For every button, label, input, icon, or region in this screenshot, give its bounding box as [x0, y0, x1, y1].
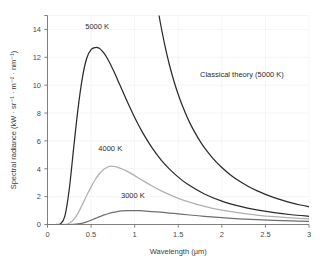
x-tick-label: 2: [220, 230, 224, 239]
y-tick-label: 4: [37, 165, 41, 174]
y-axis-title: Spectral radiance (kW · sr⁻¹ · m⁻² · nm⁻…: [9, 50, 18, 189]
x-tick-label: 0.5: [86, 230, 96, 239]
label-4000-k: 4000 K: [98, 144, 122, 153]
x-tick-label: 2.5: [260, 230, 270, 239]
y-tick-label: 12: [33, 53, 41, 62]
y-tick-label: 2: [37, 192, 41, 201]
label-3000-k: 3000 K: [121, 191, 145, 200]
x-tick-label: 3: [307, 230, 311, 239]
label-classical-theory-5000-k: Classical theory (5000 K): [200, 70, 284, 79]
x-axis-title: Wavelength (µm): [150, 247, 207, 256]
y-tick-label: 6: [37, 137, 41, 146]
label-5000-k: 5000 K: [85, 22, 109, 31]
blackbody-radiation-chart: 00.511.522.53 02468101214 5000 K4000 K30…: [0, 0, 322, 265]
x-tick-label: 0: [45, 230, 49, 239]
x-tick-label: 1.5: [173, 230, 183, 239]
chart-background: [0, 0, 322, 265]
y-tick-label: 0: [37, 220, 41, 229]
x-tick-label: 1: [133, 230, 137, 239]
y-tick-label: 8: [37, 109, 41, 118]
y-tick-label: 10: [33, 81, 41, 90]
y-tick-label: 14: [33, 25, 41, 34]
